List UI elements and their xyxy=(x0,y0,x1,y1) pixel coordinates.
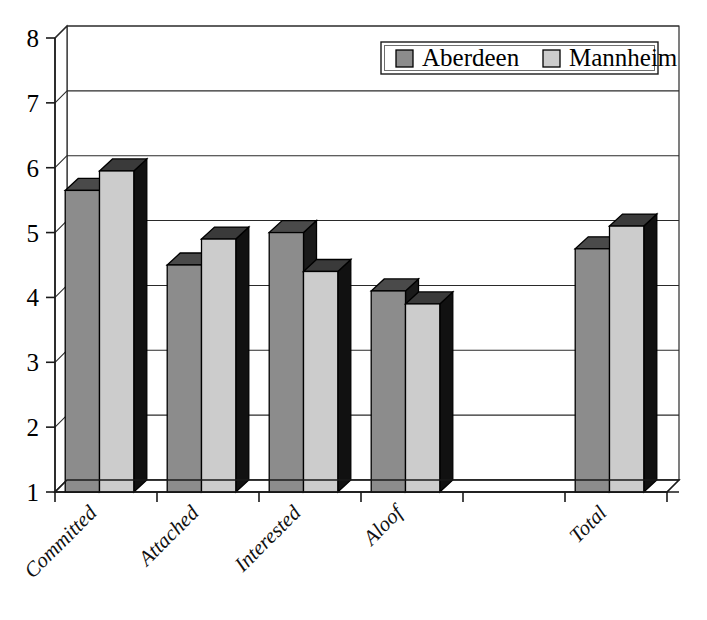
y-tick-label-5: 5 xyxy=(27,220,40,247)
chart-canvas: 12345678 CommittedAttachedInterestedAloo… xyxy=(0,0,707,620)
x-category-label-total: Total xyxy=(564,500,611,547)
bar-front-face xyxy=(304,271,338,492)
y-tick-label-8: 8 xyxy=(27,25,40,52)
bar-mannheim-3 xyxy=(406,292,453,492)
bar-front-face xyxy=(371,291,405,492)
x-category-label-committed: Committed xyxy=(19,500,101,582)
legend-label-aberdeen: Aberdeen xyxy=(422,44,520,71)
bar-side-face xyxy=(644,214,657,492)
y-tick-label-6: 6 xyxy=(27,155,40,182)
y-axis-ticks xyxy=(46,38,55,492)
y-tick-label-7: 7 xyxy=(27,90,40,117)
y-tick-label-4: 4 xyxy=(27,284,40,311)
bar-front-face xyxy=(575,249,609,492)
bar-front-face xyxy=(269,233,303,492)
legend-label-mannheim: Mannheim xyxy=(569,44,678,71)
bar-side-face xyxy=(338,259,351,492)
bar-mannheim-1 xyxy=(202,227,249,492)
bar-front-face xyxy=(202,239,236,492)
x-category-label-interested: Interested xyxy=(229,500,306,577)
bar-front-face xyxy=(167,265,201,492)
x-axis-ticks xyxy=(55,492,667,502)
x-category-label-aloof: Aloof xyxy=(357,498,410,551)
bar-mannheim-5 xyxy=(610,214,657,492)
bar-mannheim-0 xyxy=(100,159,147,492)
y-tick-label-2: 2 xyxy=(27,414,40,441)
bar-front-face xyxy=(610,226,644,492)
bar-chart: 12345678 CommittedAttachedInterestedAloo… xyxy=(0,0,707,620)
bar-front-face xyxy=(65,190,99,492)
bar-mannheim-2 xyxy=(304,259,351,492)
y-axis-tick-labels: 12345678 xyxy=(27,25,40,506)
x-axis-category-labels: CommittedAttachedInterestedAloofTotal xyxy=(19,498,611,582)
chart-legend: AberdeenMannheim xyxy=(381,42,678,74)
bar-front-face xyxy=(406,304,440,492)
bar-side-face xyxy=(440,292,453,492)
y-tick-label-3: 3 xyxy=(27,349,40,376)
legend-swatch-mannheim xyxy=(543,50,560,67)
x-category-label-attached: Attached xyxy=(132,500,204,572)
bar-front-face xyxy=(100,171,134,492)
bar-side-face xyxy=(134,159,147,492)
bar-side-face xyxy=(236,227,249,492)
legend-swatch-aberdeen xyxy=(396,50,413,67)
y-tick-label-1: 1 xyxy=(27,479,40,506)
